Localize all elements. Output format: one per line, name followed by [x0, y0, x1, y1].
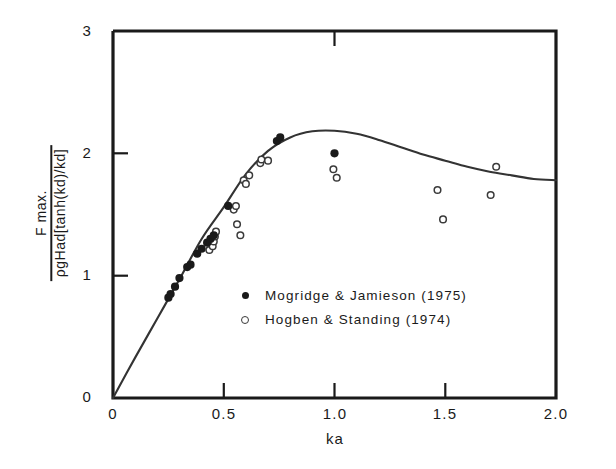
data-point-filled [175, 274, 183, 282]
data-point-open [258, 156, 265, 163]
chart-figure: 3 2 1 0 0 0.5 1.0 1.5 2.0 ka F max. ρgHa… [0, 0, 616, 469]
y-ticks [113, 153, 128, 275]
x-ticks [224, 31, 445, 398]
axis-frame [113, 31, 556, 398]
data-point-filled [210, 231, 218, 239]
y-axis-title: F max. ρgHad[tanh(kd)/kd] [20, 88, 82, 338]
data-point-open [440, 216, 447, 223]
filled-circle-icon [238, 292, 252, 299]
mogridge-jamieson-points [164, 133, 338, 301]
legend-label-hogben-standing: Hogben & Standing (1974) [265, 312, 451, 327]
x-tick-label-0: 0 [108, 405, 118, 422]
data-point-open [487, 192, 494, 199]
x-tick-label-1p0: 1.0 [323, 405, 347, 422]
y-tick-label-2: 2 [82, 144, 92, 161]
data-point-open [493, 163, 500, 170]
y-axis-numerator: F max. [34, 186, 50, 240]
data-point-open [265, 157, 272, 164]
data-point-filled [224, 202, 232, 210]
legend-entry-mogridge-jamieson: Mogridge & Jamieson (1975) [238, 288, 467, 303]
legend-entry-hogben-standing: Hogben & Standing (1974) [238, 312, 467, 327]
legend: Mogridge & Jamieson (1975) Hogben & Stan… [238, 288, 467, 327]
data-point-filled [186, 261, 194, 269]
data-point-filled [171, 283, 179, 291]
x-tick-label-2p0: 2.0 [544, 405, 568, 422]
data-point-filled [166, 290, 174, 298]
data-point-open [237, 232, 244, 239]
data-point-open [246, 172, 253, 179]
data-point-filled [198, 245, 206, 253]
data-point-filled [330, 149, 338, 157]
x-tick-label-1p5: 1.5 [433, 405, 457, 422]
open-circle-icon [238, 316, 252, 324]
y-tick-label-3: 3 [82, 22, 92, 39]
legend-label-mogridge-jamieson: Mogridge & Jamieson (1975) [265, 288, 467, 303]
y-axis-title-fraction: F max. ρgHad[tanh(kd)/kd] [34, 145, 67, 281]
y-tick-label-0: 0 [82, 388, 92, 405]
data-point-open [234, 221, 241, 228]
data-point-open [434, 187, 441, 194]
x-tick-label-0p5: 0.5 [212, 405, 236, 422]
x-axis-title: ka [326, 430, 344, 447]
frame-box [113, 31, 556, 398]
y-tick-label-1: 1 [82, 266, 92, 283]
data-point-filled [276, 133, 284, 141]
data-point-open [333, 175, 340, 182]
y-axis-denominator: ρgHad[tanh(kd)/kd] [52, 145, 68, 281]
data-point-open [233, 203, 240, 210]
data-point-open [330, 166, 337, 173]
plot-area [0, 0, 616, 469]
data-point-open [243, 181, 250, 188]
hogben-standing-points [206, 156, 499, 253]
